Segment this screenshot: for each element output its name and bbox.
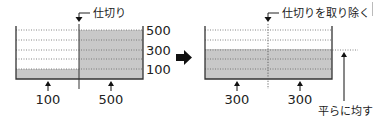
left-level-value: 300 [225, 92, 250, 107]
arrow-up-icon [234, 81, 240, 86]
leveling-label: 平らに均す [318, 105, 373, 118]
transition-arrow-icon [176, 50, 192, 65]
arrow-down-icon [76, 17, 83, 22]
arrow-down-icon [265, 17, 272, 22]
arrow-up-icon [297, 81, 303, 86]
right-level-value: 500 [99, 92, 124, 107]
after-tank: 仕切りを取り除く 300 300 平らに均す [205, 6, 373, 118]
scale-label-100: 100 [146, 62, 171, 77]
scale-label-300: 300 [146, 43, 171, 58]
partition-label: 仕切り [93, 7, 126, 20]
arrow-up-icon [45, 81, 51, 86]
arrow-up-icon [108, 81, 114, 86]
right-fill-500 [79, 30, 143, 79]
arrow-up-icon [341, 52, 347, 57]
right-level-value: 300 [288, 92, 313, 107]
level-fill-300 [205, 49, 332, 79]
leveling-diagram: 仕切り 500 300 100 100 500 仕切りを取り除く [0, 0, 374, 124]
remove-partition-label: 仕切りを取り除く [282, 6, 370, 20]
left-fill-100 [16, 69, 79, 79]
before-tank: 仕切り 500 300 100 100 500 [16, 7, 171, 107]
scale-label-500: 500 [146, 23, 171, 38]
left-level-value: 100 [36, 92, 61, 107]
